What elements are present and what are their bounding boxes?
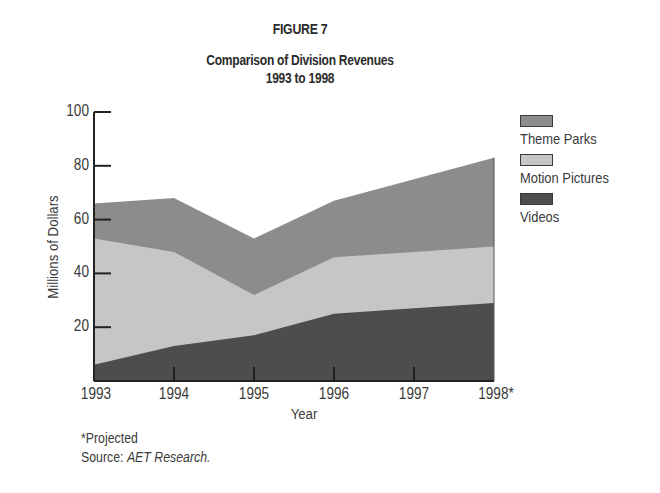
x-tick-label: 1997 [389,385,440,403]
x-tick-label: 1994 [149,385,200,403]
legend-swatch-motion-pictures [520,154,553,166]
source-note: Source: AET Research. [81,449,210,465]
x-tick-label: 1996 [309,385,360,403]
legend-label-theme-parks: Theme Parks [520,130,597,147]
y-tick-label: 80 [55,156,89,174]
x-axis-label: Year [269,405,339,422]
y-tick-label: 100 [55,102,89,120]
y-tick-label: 20 [55,317,89,335]
source-name: AET Research. [127,449,211,465]
source-prefix: Source: [81,449,127,465]
x-tick-label: 1993 [71,385,122,403]
x-tick-label: 1998* [471,385,522,403]
legend-swatch-theme-parks [520,115,553,127]
footnote-projected: *Projected [81,430,138,446]
x-tick-label: 1995 [229,385,280,403]
legend-swatch-videos [520,193,553,205]
legend-label-motion-pictures: Motion Pictures [520,169,609,186]
legend-label-videos: Videos [520,208,559,225]
y-axis-label: Millions of Dollars [44,190,61,304]
